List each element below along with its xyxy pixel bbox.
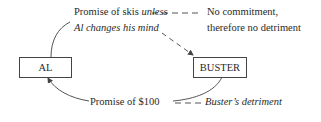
promise-100-to-al-arrow [48,78,89,101]
node-al-label: AL [39,62,53,73]
node-buster-label: BUSTER [200,62,240,73]
promise-skis-dashed-arrow [162,33,193,55]
busters-detriment-note: Buster’s detriment [205,96,282,108]
promise-skis-label-line2: Al changes his mind [74,22,159,34]
promise-skis-label-line1: Promise of skis unless [74,6,168,18]
no-commitment-note-line2: therefore no detriment [207,22,301,34]
no-commitment-note-line1: No commitment, [207,6,278,18]
node-al: AL [19,57,72,78]
unless-text: unless [141,6,167,17]
promise-100-label: Promise of $100 [90,96,159,108]
al-to-promise-skis-curve [51,22,70,57]
node-buster: BUSTER [193,57,247,78]
promise-skis-text: Promise of skis [74,6,141,17]
